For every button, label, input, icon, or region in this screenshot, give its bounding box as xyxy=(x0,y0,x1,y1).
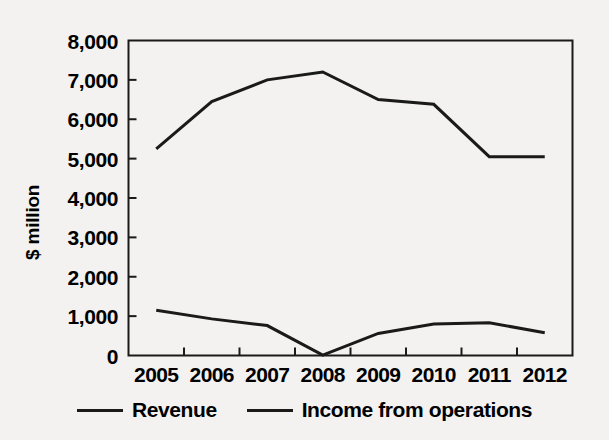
y-axis-tick-label: 2,000 xyxy=(8,267,118,288)
y-axis-tick-label: 6,000 xyxy=(8,109,118,130)
x-axis-tick-label: 2005 xyxy=(129,364,185,385)
legend-label: Income from operations xyxy=(302,398,532,422)
y-axis-tick-label: 5,000 xyxy=(8,149,118,170)
series-line-1 xyxy=(156,72,545,157)
legend-item[interactable]: Revenue xyxy=(77,398,217,422)
y-axis-tick-label: 8,000 xyxy=(8,31,118,52)
y-axis-tick-label: 0 xyxy=(8,346,118,367)
x-axis-ticks xyxy=(184,348,517,356)
legend-line-swatch xyxy=(77,409,123,412)
legend-line-swatch xyxy=(247,409,293,412)
chart-legend: RevenueIncome from operations xyxy=(0,398,609,422)
x-axis-tick-label: 2008 xyxy=(295,364,351,385)
x-axis-tick-label: 2006 xyxy=(184,364,240,385)
y-axis-tick-label: 1,000 xyxy=(8,306,118,327)
y-axis-tick-label: 7,000 xyxy=(8,70,118,91)
plot-frame-border xyxy=(129,41,573,356)
legend-item[interactable]: Income from operations xyxy=(247,398,532,422)
x-axis-tick-label: 2007 xyxy=(240,364,296,385)
x-axis-tick-label: 2009 xyxy=(351,364,407,385)
legend-label: Revenue xyxy=(132,398,217,422)
x-axis-tick-label: 2010 xyxy=(406,364,462,385)
x-axis-tick-label: 2011 xyxy=(462,364,518,385)
series-lines xyxy=(156,72,545,355)
y-axis-tick-label: 3,000 xyxy=(8,227,118,248)
y-axis-ticks xyxy=(129,80,137,316)
line-chart: $ million 8,0007,0006,0005,0004,0003,000… xyxy=(0,0,609,440)
x-axis-tick-label: 2012 xyxy=(517,364,573,385)
y-axis-tick-label: 4,000 xyxy=(8,188,118,209)
